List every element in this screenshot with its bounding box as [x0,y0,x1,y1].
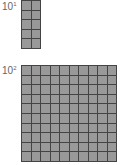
grid-cell [108,143,117,152]
grid-cell [89,152,98,161]
grid-cell [32,39,41,48]
grid-cell [70,143,79,152]
grid-cell [32,85,41,94]
grid-cell [70,76,79,85]
grid-cell [70,95,79,104]
grid-cell [22,11,31,20]
label-ten-pow-1: 101 [2,2,16,12]
grid-cell [51,66,60,75]
grid-cell [60,95,69,104]
grid-cell [98,85,107,94]
grid-cell [79,76,88,85]
grid-cell [79,114,88,123]
label-ten-pow-2: 102 [2,66,16,76]
grid-cell [32,11,41,20]
grid-cell [98,104,107,113]
grid-cell [51,76,60,85]
grid-cell [51,143,60,152]
grid-cell [32,104,41,113]
grid-cell [70,85,79,94]
grid-cell [60,76,69,85]
grid-cell [32,66,41,75]
grid-cell [51,124,60,133]
grid-cell [60,152,69,161]
grid-cell [22,30,31,39]
grid-cell [79,95,88,104]
grid-cell [51,114,60,123]
grid-cell [79,143,88,152]
grid-cell [32,133,41,142]
grid-cell [60,66,69,75]
grid-cell [22,133,31,142]
grid-cell [89,95,98,104]
grid-cell [51,85,60,94]
grid-cell [79,104,88,113]
grid-cell [89,114,98,123]
grid-cell [22,95,31,104]
grid-cell [79,124,88,133]
label-base: 10 [2,1,13,12]
grid-cell [32,114,41,123]
grid-cell [79,66,88,75]
grid-cell [41,104,50,113]
grid-cell [98,124,107,133]
grid-cell [51,95,60,104]
grid-cell [108,124,117,133]
grid-cell [41,133,50,142]
grid-cell [108,66,117,75]
grid-cell [32,20,41,29]
grid-cell [108,76,117,85]
grid-cell [22,20,31,29]
grid-cell [98,66,107,75]
grid-cell [22,152,31,161]
grid-cell [22,104,31,113]
grid-cell [22,114,31,123]
grid-cell [89,85,98,94]
grid-cell [32,143,41,152]
grid-cell [32,1,41,10]
grid-cell [41,95,50,104]
grid-cell [70,124,79,133]
grid-cell [98,133,107,142]
grid-cell [79,133,88,142]
grid-cell [70,152,79,161]
grid-cell [41,76,50,85]
label-exponent: 1 [13,1,16,7]
grid-cell [32,95,41,104]
grid-ten [21,0,41,49]
grid-cell [89,66,98,75]
grid-cell [89,133,98,142]
grid-cell [32,124,41,133]
grid-cell [70,66,79,75]
grid-cell [108,104,117,113]
grid-cell [89,143,98,152]
grid-cell [108,95,117,104]
grid-cell [98,152,107,161]
grid-cell [22,124,31,133]
grid-cell [70,114,79,123]
label-base: 10 [2,65,13,76]
grid-cell [89,76,98,85]
grid-cell [108,133,117,142]
grid-cell [98,143,107,152]
grid-cell [98,114,107,123]
grid-cell [60,143,69,152]
grid-cell [32,76,41,85]
grid-cell [51,133,60,142]
grid-cell [108,114,117,123]
grid-cell [41,114,50,123]
grid-cell [89,124,98,133]
grid-cell [32,30,41,39]
grid-cell [41,143,50,152]
grid-cell [108,152,117,161]
grid-cell [60,124,69,133]
grid-cell [89,104,98,113]
grid-cell [22,1,31,10]
grid-cell [32,152,41,161]
grid-cell [60,114,69,123]
grid-cell [22,143,31,152]
grid-cell [79,152,88,161]
grid-cell [108,85,117,94]
grid-cell [70,104,79,113]
grid-cell [51,152,60,161]
